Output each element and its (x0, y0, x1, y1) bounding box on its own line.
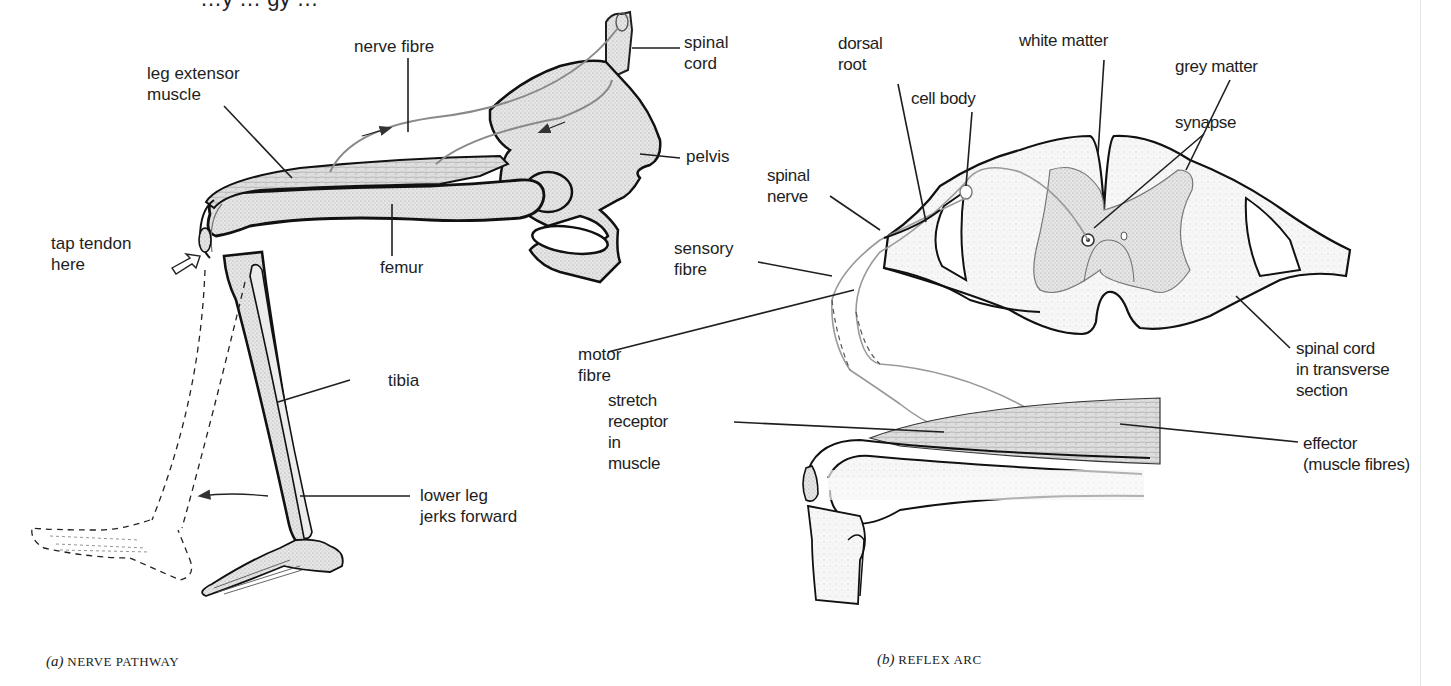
label-synapse: synapse (1175, 112, 1236, 133)
label-stretch-receptor-in-muscle: stretch receptor in muscle (608, 390, 668, 474)
label-effector-muscle-fibres: effector (muscle fibres) (1303, 433, 1410, 475)
reflex-diagram: …y … gy … nerve fibre spinal cord leg ex… (0, 0, 1451, 686)
caption-b: (b) REFLEX ARC (877, 651, 982, 668)
foot-shape (202, 540, 343, 596)
label-grey-matter: grey matter (1175, 56, 1258, 77)
caption-a: (a) NERVE PATHWAY (46, 653, 179, 670)
label-lower-leg-jerks-forward: lower leg jerks forward (420, 485, 517, 527)
label-femur: femur (380, 257, 423, 278)
panel-a-artwork (32, 12, 680, 596)
caption-b-letter: (b) (877, 651, 895, 667)
page-edge-rule (1420, 0, 1421, 686)
label-tap-tendon-here: tap tendon here (51, 233, 131, 275)
label-spinal-cord: spinal cord (684, 32, 728, 74)
label-nerve-fibre: nerve fibre (354, 36, 434, 57)
label-dorsal-root: dorsal root (838, 33, 883, 75)
page-heading-fragment: …y … gy … (200, 0, 319, 12)
label-cell-body: cell body (911, 88, 975, 109)
label-tibia: tibia (388, 370, 419, 391)
label-leg-extensor-muscle: leg extensor muscle (147, 63, 240, 105)
sensory-direction-arrow-icon (362, 128, 390, 136)
jerk-forward-arrow-icon (200, 494, 268, 496)
label-sensory-fibre: sensory fibre (674, 238, 734, 280)
ghost-leg-outline (32, 270, 245, 580)
caption-a-text: NERVE PATHWAY (67, 654, 179, 669)
tap-arrow-icon (172, 254, 200, 274)
caption-b-text: REFLEX ARC (898, 652, 981, 667)
label-spinal-cord-transverse-section: spinal cord in transverse section (1296, 338, 1389, 401)
label-spinal-nerve: spinal nerve (767, 165, 810, 207)
label-motor-fibre: motor fibre (578, 344, 621, 386)
label-pelvis: pelvis (686, 146, 729, 167)
caption-a-letter: (a) (46, 653, 64, 669)
label-white-matter: white matter (1019, 30, 1108, 51)
panel-b-artwork (608, 60, 1350, 604)
